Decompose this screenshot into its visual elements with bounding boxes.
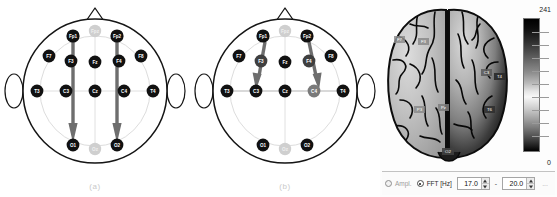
svg-text:F3: F3 [258,59,264,64]
svg-text:F3: F3 [421,39,427,44]
head-diagram-panel-b: Fpz Oz Fp1 Fp2 F7 F3 Fz F4 F8 T3 C3 Cz C… [190,0,380,197]
electrode-f8[interactable]: F8 [135,50,148,63]
electrode-f8[interactable]: F8 [325,50,338,63]
panel-caption-a: (a) [0,182,190,191]
brain-label-f7: F7 [394,36,405,43]
svg-text:T4: T4 [497,74,503,79]
colorbar-min-label: 0 [517,159,551,166]
brain-topomap-svg: F7 F3 C3 T4 P3 Pz T6 O2 [380,0,515,168]
electrode-fz[interactable]: Fz [89,56,102,69]
svg-text:O2: O2 [114,143,121,148]
freq-high-arrows[interactable] [526,178,534,189]
brain-label-f3: F3 [418,38,429,45]
svg-text:C4: C4 [121,89,127,94]
left-hemisphere [388,10,446,158]
electrode-o1[interactable]: O1 [257,139,270,152]
svg-text:Fz: Fz [92,60,98,65]
electrode-oz[interactable]: Oz [89,143,101,155]
freq-high-decrement-icon[interactable] [527,183,534,189]
radio-ampl-icon[interactable] [385,180,392,187]
svg-text:Fp2: Fp2 [303,34,312,39]
brain-label-t6: T6 [484,106,495,113]
electrode-f4[interactable]: F4 [113,55,126,68]
svg-text:O2: O2 [304,143,311,148]
electrode-f3[interactable]: F3 [255,55,268,68]
left-ear [195,74,213,108]
electrode-t4[interactable]: T4 [147,85,160,98]
svg-text:C4: C4 [311,89,317,94]
freq-low-decrement-icon[interactable] [482,183,489,189]
freq-high-value[interactable]: 20.0 [503,178,526,189]
svg-text:Oz: Oz [282,147,289,152]
svg-text:Fp1: Fp1 [259,34,268,39]
electrode-o1[interactable]: O1 [67,139,80,152]
head-diagram-panel-a: Fpz Oz Fp1 Fp2 F7 F3 Fz F4 F8 T3 C3 Cz C… [0,0,190,197]
electrode-fp2[interactable]: Fp2 [110,29,123,42]
svg-text:F7: F7 [236,54,242,59]
electrode-o2[interactable]: O2 [301,139,314,152]
electrode-c3[interactable]: C3 [60,85,73,98]
left-ear [5,74,23,108]
svg-text:F7: F7 [46,54,52,59]
svg-text:O1: O1 [260,143,267,148]
radio-ampl[interactable]: Ampl. [385,180,412,187]
electrode-fpz[interactable]: Fpz [89,25,101,37]
electrode-f7[interactable]: F7 [233,50,246,63]
electrode-c3[interactable]: C3 [250,85,263,98]
svg-text:Fz: Fz [282,60,288,65]
eeg-propagation-figure: Fpz Oz Fp1 Fp2 F7 F3 Fz F4 F8 T3 C3 Cz C… [0,0,557,197]
electrode-fp2[interactable]: Fp2 [300,29,313,42]
svg-text:F8: F8 [138,54,144,59]
electrode-f4[interactable]: F4 [303,55,316,68]
overflow-indicator: ... [542,180,548,187]
svg-text:T3: T3 [34,89,40,94]
electrode-t4[interactable]: T4 [337,85,350,98]
electrode-f3[interactable]: F3 [65,55,78,68]
svg-text:Fp2: Fp2 [113,34,122,39]
svg-text:O1: O1 [70,143,77,148]
electrode-oz[interactable]: Oz [279,143,291,155]
svg-text:F4: F4 [116,59,122,64]
brain-label-t4: T4 [494,73,505,80]
electrode-t3[interactable]: T3 [31,85,44,98]
svg-text:C3: C3 [63,89,69,94]
colorbar-max-label: 241 [517,6,551,13]
svg-text:T6: T6 [487,107,493,112]
electrode-f7[interactable]: F7 [43,50,56,63]
svg-text:Pz: Pz [441,105,446,110]
panel-caption-b: (b) [190,182,380,191]
freq-low-arrows[interactable] [481,178,489,189]
freq-low-stepper[interactable]: 17.0 [457,177,490,190]
svg-text:T4: T4 [340,89,346,94]
svg-text:Cz: Cz [92,89,98,94]
electrode-cz[interactable]: Cz [89,85,102,98]
radio-fft-label: FFT [Hz] [427,180,452,187]
electrode-fz[interactable]: Fz [279,56,292,69]
electrode-t3[interactable]: T3 [221,85,234,98]
electrode-fp1[interactable]: Fp1 [66,29,79,42]
electrode-c4[interactable]: C4 [118,85,131,98]
svg-text:Cz: Cz [282,89,288,94]
electrode-o2[interactable]: O2 [111,139,124,152]
radio-ampl-label: Ampl. [395,180,412,187]
head-montage-svg-b: Fpz Oz Fp1 Fp2 F7 F3 Fz F4 F8 T3 C3 Cz C… [190,0,380,172]
right-hemisphere [449,10,507,158]
electrode-c4[interactable]: C4 [308,85,321,98]
svg-text:O2: O2 [445,149,451,154]
freq-high-stepper[interactable]: 20.0 [502,177,535,190]
electrode-fp1[interactable]: Fp1 [256,29,269,42]
radio-fft[interactable]: FFT [Hz] [417,180,452,187]
brain-label-pz: Pz [438,104,449,111]
electrode-fpz[interactable]: Fpz [279,25,291,37]
svg-text:C3: C3 [484,70,490,75]
svg-text:F4: F4 [306,59,312,64]
head-montage-svg-a: Fpz Oz Fp1 Fp2 F7 F3 Fz F4 F8 T3 C3 Cz C… [0,0,190,172]
freq-low-value[interactable]: 17.0 [458,178,481,189]
svg-text:T3: T3 [224,89,230,94]
right-ear [167,74,185,108]
svg-text:P3: P3 [417,107,423,112]
electrode-cz[interactable]: Cz [279,85,292,98]
svg-text:F3: F3 [68,59,74,64]
svg-text:Fpz: Fpz [91,29,100,34]
radio-fft-icon[interactable] [417,180,424,187]
